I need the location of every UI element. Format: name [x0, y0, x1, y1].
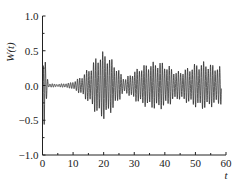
y-tick-label: 1.0 [25, 10, 39, 22]
x-tick-label: 30 [129, 157, 141, 169]
y-tick-label: 0.0 [25, 80, 39, 92]
x-tick-label: 20 [98, 157, 110, 169]
y-tick-label: 0.5 [25, 45, 39, 57]
x-tick-label: 40 [159, 157, 171, 169]
x-axis-label: t [224, 169, 228, 181]
y-tick-label: −1.0 [19, 149, 39, 161]
plot-area [43, 52, 222, 125]
x-tick-label: 0 [40, 157, 46, 169]
y-tick-label: −0.5 [19, 114, 39, 126]
x-tick-label: 10 [68, 157, 80, 169]
x-tick-label: 60 [221, 157, 233, 169]
x-tick-label: 50 [190, 157, 202, 169]
chart: 0102030405060−1.0−0.50.00.51.0W(t)t [0, 0, 239, 189]
signal-line [43, 52, 222, 125]
y-axis-label: W(t) [4, 42, 17, 62]
